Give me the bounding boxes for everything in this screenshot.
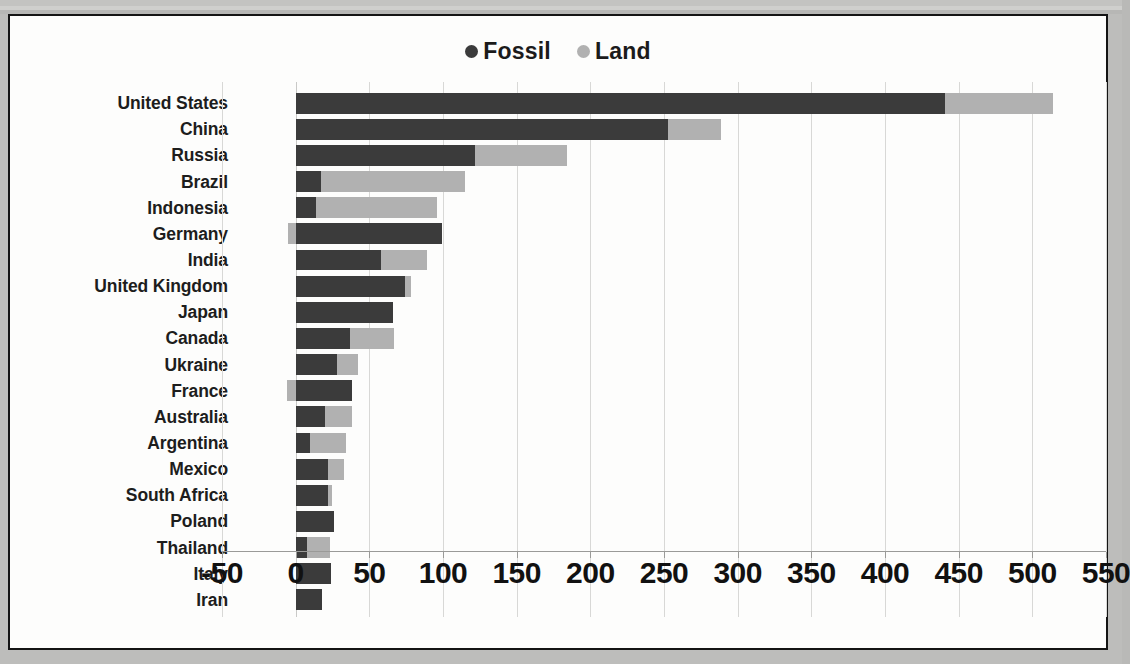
bar-segment-land[interactable]	[287, 380, 296, 401]
category-label: Ukraine	[165, 354, 229, 375]
legend-entry-fossil[interactable]: Fossil	[465, 38, 551, 65]
bar-segment-land[interactable]	[325, 406, 352, 427]
bar-segment-fossil[interactable]	[296, 511, 334, 532]
x-tick-label: 400	[861, 556, 910, 590]
legend-entry-land[interactable]: Land	[577, 38, 651, 65]
bar-row[interactable]	[222, 276, 1106, 297]
bar-segment-fossil[interactable]	[296, 276, 405, 297]
x-tick-label: 0	[288, 556, 304, 590]
bar-row[interactable]	[222, 119, 1106, 140]
bar-segment-fossil[interactable]	[296, 171, 321, 192]
bar-segment-fossil[interactable]	[296, 354, 337, 375]
legend-label-land: Land	[595, 38, 651, 65]
bar-segment-land[interactable]	[668, 119, 721, 140]
bar-segment-land[interactable]	[350, 328, 394, 349]
x-axis-tick-labels: -50050100150200250300350400450500550	[222, 552, 1106, 610]
category-label: China	[180, 119, 228, 140]
chart-legend: Fossil Land	[10, 38, 1106, 65]
bar-segment-fossil[interactable]	[296, 93, 946, 114]
x-tick-label: 550	[1082, 556, 1130, 590]
bar-row[interactable]	[222, 145, 1106, 166]
bar-segment-fossil[interactable]	[296, 433, 311, 454]
bar-segment-fossil[interactable]	[296, 145, 476, 166]
category-label: Russia	[171, 145, 228, 166]
x-tick-label: 300	[713, 556, 762, 590]
bar-segment-land[interactable]	[316, 197, 437, 218]
x-tick-label: 100	[419, 556, 468, 590]
bar-segment-land[interactable]	[321, 171, 465, 192]
bars-area	[222, 82, 1106, 617]
bar-segment-fossil[interactable]	[296, 119, 669, 140]
x-tick-label: -50	[201, 556, 243, 590]
bar-row[interactable]	[222, 511, 1106, 532]
bar-segment-land[interactable]	[328, 485, 332, 506]
bar-row[interactable]	[222, 354, 1106, 375]
category-label: Australia	[154, 406, 228, 427]
category-label: Poland	[170, 511, 228, 532]
bar-segment-land[interactable]	[945, 93, 1053, 114]
legend-dot-land	[577, 45, 590, 58]
x-tick-label: 250	[640, 556, 689, 590]
bar-segment-fossil[interactable]	[296, 250, 381, 271]
bar-segment-fossil[interactable]	[296, 485, 328, 506]
bar-row[interactable]	[222, 223, 1106, 244]
bar-row[interactable]	[222, 171, 1106, 192]
category-label: Canada	[165, 328, 228, 349]
bar-row[interactable]	[222, 406, 1106, 427]
category-label: Mexico	[169, 459, 228, 480]
bar-row[interactable]	[222, 93, 1106, 114]
category-label: France	[171, 380, 228, 401]
category-axis: United StatesChinaRussiaBrazilIndonesiaG…	[10, 82, 240, 617]
bar-segment-land[interactable]	[405, 276, 411, 297]
bar-segment-land[interactable]	[310, 433, 345, 454]
bar-row[interactable]	[222, 302, 1106, 323]
chart-frame: Fossil Land United StatesChinaRussiaBraz…	[8, 14, 1108, 650]
category-label: Argentina	[147, 433, 228, 454]
bar-segment-land[interactable]	[328, 459, 344, 480]
category-label: United States	[117, 93, 228, 114]
bar-segment-fossil[interactable]	[296, 459, 328, 480]
bar-segment-land[interactable]	[381, 250, 427, 271]
bar-row[interactable]	[222, 459, 1106, 480]
bar-row[interactable]	[222, 485, 1106, 506]
legend-label-fossil: Fossil	[483, 38, 551, 65]
category-label: Germany	[153, 223, 228, 244]
bar-segment-fossil[interactable]	[296, 406, 325, 427]
category-label: Thailand	[157, 537, 228, 558]
category-label: South Africa	[126, 485, 228, 506]
category-label: Indonesia	[147, 197, 228, 218]
bar-row[interactable]	[222, 328, 1106, 349]
category-label: United Kingdom	[94, 276, 228, 297]
bar-row[interactable]	[222, 250, 1106, 271]
x-tick-label: 200	[566, 556, 615, 590]
bar-segment-fossil[interactable]	[296, 328, 351, 349]
bar-segment-fossil[interactable]	[296, 302, 393, 323]
x-tick-label: 500	[1008, 556, 1057, 590]
bar-segment-land[interactable]	[288, 223, 295, 244]
x-tick-label: 350	[787, 556, 836, 590]
bar-segment-fossil[interactable]	[296, 380, 352, 401]
category-label: Brazil	[181, 171, 228, 192]
legend-dot-fossil	[465, 45, 478, 58]
x-tick-label: 450	[934, 556, 983, 590]
x-tick-label: 150	[492, 556, 541, 590]
category-label: Japan	[178, 302, 228, 323]
bar-row[interactable]	[222, 380, 1106, 401]
x-tick-label: 50	[353, 556, 385, 590]
bar-segment-land[interactable]	[475, 145, 566, 166]
bar-segment-fossil[interactable]	[296, 197, 317, 218]
bar-row[interactable]	[222, 197, 1106, 218]
gridline	[1106, 82, 1107, 617]
bar-segment-fossil[interactable]	[296, 223, 442, 244]
bar-segment-land[interactable]	[337, 354, 358, 375]
bar-row[interactable]	[222, 433, 1106, 454]
